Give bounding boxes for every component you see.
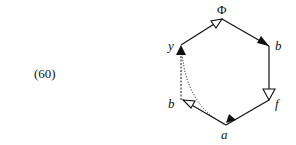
vertex-label-b-top-right: b <box>275 38 282 53</box>
hexagon-diagram: Φ b f a b y <box>0 0 296 145</box>
vertex-label-f: f <box>275 96 281 111</box>
open-arrowhead-icon <box>263 89 275 100</box>
vertex-label-b-bottom-left: b <box>168 96 175 111</box>
open-arrowhead-icon <box>211 19 222 28</box>
vertex-label-phi: Φ <box>217 2 227 17</box>
vertex-label-y: y <box>166 38 174 53</box>
vertex-label-a: a <box>221 127 228 142</box>
edge-f-to-a <box>226 100 269 125</box>
open-arrowhead-icon <box>183 100 195 108</box>
edge-a-to-y-dotted <box>182 52 224 124</box>
filled-arrowhead-icon <box>257 36 269 46</box>
filled-arrowhead-icon <box>176 45 186 55</box>
